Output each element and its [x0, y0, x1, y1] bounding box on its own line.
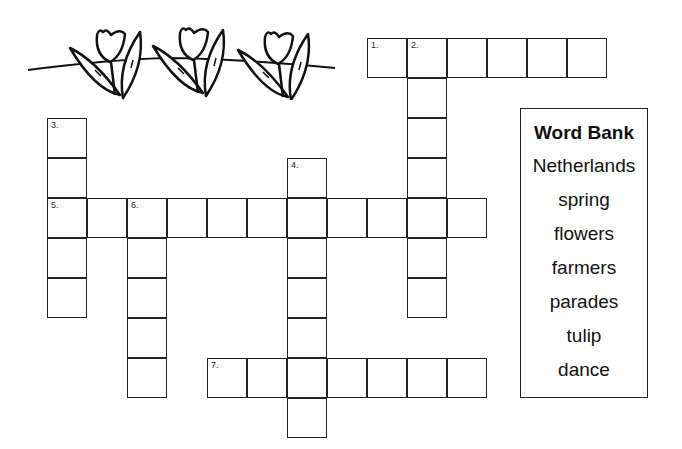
crossword-cell[interactable]: [407, 358, 447, 398]
word-bank-item: Netherlands: [521, 155, 647, 189]
crossword-cell[interactable]: 3.: [47, 118, 87, 158]
clue-number: 3.: [51, 120, 59, 130]
crossword-cell[interactable]: 7.: [207, 358, 247, 398]
crossword-cell[interactable]: [127, 318, 167, 358]
crossword-cell[interactable]: 2.: [407, 38, 447, 78]
crossword-cell[interactable]: [207, 198, 247, 238]
word-bank-title: Word Bank: [521, 121, 647, 155]
crossword-cell[interactable]: [287, 238, 327, 278]
crossword-cell[interactable]: [407, 198, 447, 238]
crossword-cell[interactable]: 5.: [47, 198, 87, 238]
word-bank-item: spring: [521, 189, 647, 223]
crossword-cell[interactable]: [87, 198, 127, 238]
word-bank-item: dance: [521, 359, 647, 393]
crossword-cell[interactable]: [327, 358, 367, 398]
clue-number: 5.: [51, 200, 59, 210]
crossword-cell[interactable]: [287, 398, 327, 438]
crossword-cell[interactable]: [47, 158, 87, 198]
crossword-cell[interactable]: [487, 38, 527, 78]
crossword-cell[interactable]: [247, 358, 287, 398]
crossword-cell[interactable]: [127, 278, 167, 318]
crossword-cell[interactable]: [407, 278, 447, 318]
word-bank-item: flowers: [521, 223, 647, 257]
crossword-cell[interactable]: [167, 198, 207, 238]
crossword-cell[interactable]: [287, 278, 327, 318]
crossword-cell[interactable]: 4.: [287, 158, 327, 198]
crossword-cell[interactable]: [407, 118, 447, 158]
crossword-cell[interactable]: 1.: [367, 38, 407, 78]
crossword-cell[interactable]: [127, 238, 167, 278]
crossword-cell[interactable]: [407, 238, 447, 278]
crossword-cell[interactable]: [47, 278, 87, 318]
crossword-cell[interactable]: [367, 358, 407, 398]
clue-number: 4.: [291, 160, 299, 170]
crossword-cell[interactable]: [327, 198, 367, 238]
crossword-cell[interactable]: [447, 358, 487, 398]
crossword-cell[interactable]: [527, 38, 567, 78]
clue-number: 2.: [411, 40, 419, 50]
crossword-cell[interactable]: [407, 158, 447, 198]
word-bank-item: tulip: [521, 325, 647, 359]
clue-number: 1.: [371, 40, 379, 50]
crossword-cell[interactable]: [447, 38, 487, 78]
crossword-cell[interactable]: [287, 358, 327, 398]
crossword-cell[interactable]: [367, 198, 407, 238]
crossword-cell[interactable]: 6.: [127, 198, 167, 238]
crossword-cell[interactable]: [407, 78, 447, 118]
crossword-cell[interactable]: [447, 198, 487, 238]
crossword-cell[interactable]: [47, 238, 87, 278]
clue-number: 7.: [211, 360, 219, 370]
clue-number: 6.: [131, 200, 139, 210]
word-bank: Word Bank Netherlands spring flowers far…: [520, 108, 648, 398]
crossword-cell[interactable]: [247, 198, 287, 238]
crossword-cell[interactable]: [287, 198, 327, 238]
word-bank-item: parades: [521, 291, 647, 325]
crossword-cell[interactable]: [567, 38, 607, 78]
crossword-cell[interactable]: [127, 358, 167, 398]
crossword-cell[interactable]: [287, 318, 327, 358]
word-bank-item: farmers: [521, 257, 647, 291]
